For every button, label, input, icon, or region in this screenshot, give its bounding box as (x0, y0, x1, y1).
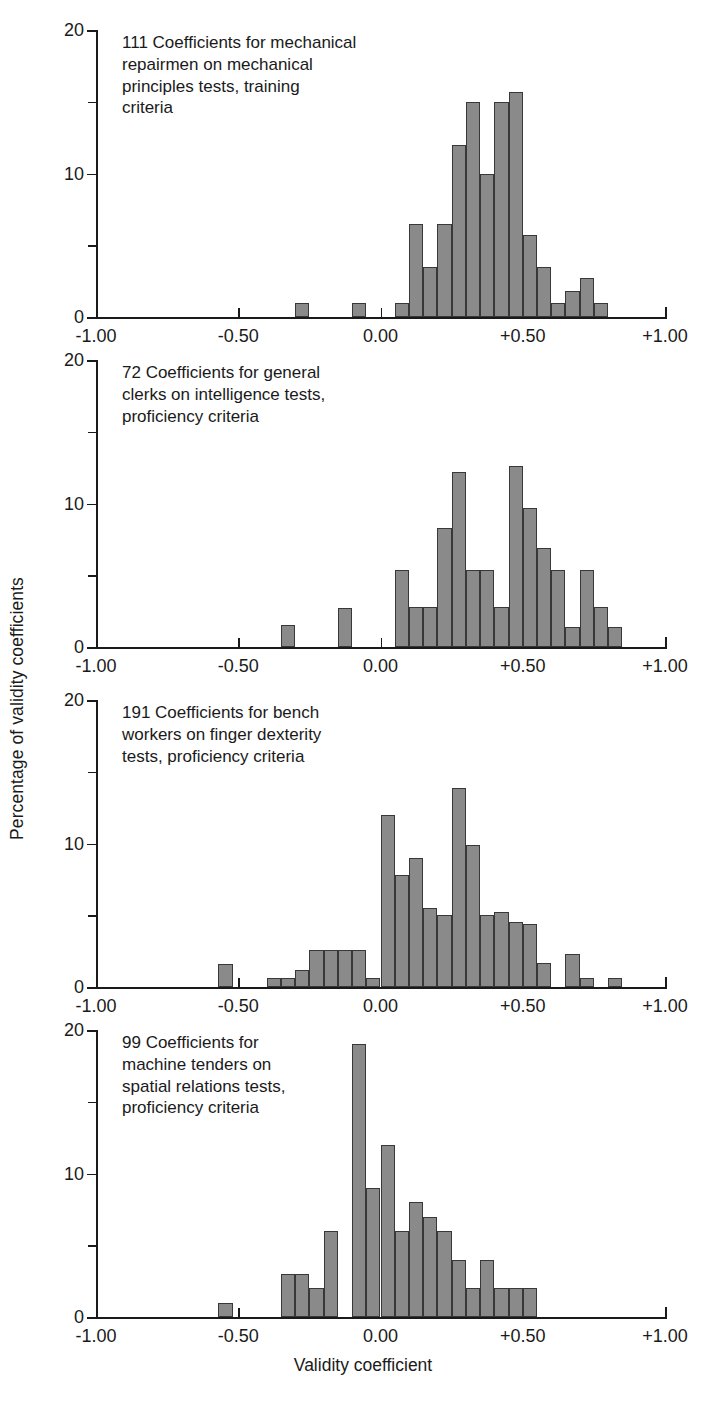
histogram-bar (366, 978, 380, 987)
x-axis-line (96, 987, 667, 989)
x-tick-label: +0.50 (500, 1327, 546, 1345)
y-tick-minor (88, 102, 96, 104)
y-tick-major (87, 700, 96, 702)
histogram-bar (537, 548, 551, 647)
x-tick-label: +1.00 (642, 1327, 688, 1345)
y-axis-line (96, 30, 98, 317)
histogram-bar (580, 570, 594, 647)
histogram-bar (494, 607, 508, 647)
histogram-bar (494, 102, 508, 317)
histogram-bar (565, 627, 579, 647)
panel-caption: 99 Coefficients for machine tenders on s… (122, 1032, 285, 1119)
x-tick (96, 307, 98, 318)
x-axis-title: Validity coefficient (0, 1355, 726, 1376)
y-tick-label: 10 (50, 835, 84, 853)
y-tick-minor (88, 915, 96, 917)
x-tick (238, 978, 240, 987)
x-axis-line (96, 1317, 667, 1319)
y-tick-label: 20 (50, 691, 84, 709)
y-tick-minor (88, 245, 96, 247)
histogram-bar (452, 788, 466, 987)
histogram-panel-3: 01020-1.00-0.500.00+0.50+1.00191 Coeffic… (36, 700, 720, 1047)
x-tick (381, 638, 383, 647)
y-tick-minor (88, 575, 96, 577)
x-tick-label: 0.00 (363, 997, 398, 1015)
histogram-bar (395, 875, 409, 987)
histogram-bar (309, 950, 323, 987)
histogram-bar (466, 102, 480, 317)
histogram-bar (480, 174, 494, 318)
x-tick-label: +1.00 (642, 657, 688, 675)
x-tick (665, 1307, 667, 1318)
histogram-bar (395, 303, 409, 317)
histogram-bar (551, 303, 565, 317)
x-tick-label: -0.50 (218, 327, 259, 345)
y-tick-major (87, 317, 96, 319)
y-tick-minor (88, 432, 96, 434)
panel-caption: 72 Coefficients for general clerks on in… (122, 362, 325, 427)
y-tick-label: 20 (50, 351, 84, 369)
x-tick (96, 637, 98, 648)
histogram-panel-1: 01020-1.00-0.500.00+0.50+1.00111 Coeffic… (36, 30, 720, 377)
histogram-bar (295, 303, 309, 317)
histogram-bar (523, 1288, 537, 1317)
histogram-bar (594, 607, 608, 647)
x-tick (96, 977, 98, 988)
histogram-bar (594, 303, 608, 317)
histogram-bar (466, 1288, 480, 1317)
histogram-bar (523, 508, 537, 647)
histogram-bar (267, 978, 281, 987)
histogram-bar (509, 466, 523, 647)
x-tick-label: +0.50 (500, 327, 546, 345)
histogram-bar (509, 1288, 523, 1317)
histogram-bar (218, 964, 232, 987)
histogram-bar (509, 922, 523, 987)
histogram-bar (218, 1303, 232, 1317)
histogram-bar (395, 1231, 409, 1317)
x-axis-line (96, 647, 667, 649)
x-axis-line (96, 317, 667, 319)
histogram-bar (281, 1274, 295, 1317)
histogram-bar (480, 1260, 494, 1317)
y-tick-minor (88, 1102, 96, 1104)
histogram-bar (423, 1217, 437, 1317)
y-tick-minor (88, 772, 96, 774)
x-tick-label: -0.50 (218, 997, 259, 1015)
plot-area: 01020-1.00-0.500.00+0.50+1.0072 Coeffici… (36, 360, 720, 707)
histogram-bar (437, 224, 451, 317)
histogram-bar (338, 608, 352, 647)
x-tick (665, 637, 667, 648)
histogram-bar (295, 970, 309, 987)
y-tick-major (87, 30, 96, 32)
histogram-bar (281, 978, 295, 987)
histogram-bar (352, 950, 366, 987)
x-tick-label: +1.00 (642, 997, 688, 1015)
histogram-bar (409, 224, 423, 317)
histogram-bar (437, 915, 451, 987)
histogram-bar (366, 1188, 380, 1317)
histogram-bar (437, 528, 451, 647)
y-tick-label: 10 (50, 165, 84, 183)
y-tick-label: 0 (50, 308, 84, 326)
histogram-bar (480, 570, 494, 647)
histogram-bar (423, 607, 437, 647)
histogram-bar (324, 1231, 338, 1317)
histogram-bar (352, 1044, 366, 1317)
histogram-bar (437, 1231, 451, 1317)
y-tick-major (87, 647, 96, 649)
histogram-bar (494, 912, 508, 987)
y-tick-major (87, 1174, 96, 1176)
y-tick-label: 0 (50, 1308, 84, 1326)
histogram-bar (423, 267, 437, 317)
histogram-bar (565, 291, 579, 317)
x-tick (665, 977, 667, 988)
x-tick-label: +0.50 (500, 997, 546, 1015)
histogram-bar (551, 570, 565, 647)
y-axis-line (96, 360, 98, 647)
y-tick-label: 20 (50, 21, 84, 39)
histogram-panel-2: 01020-1.00-0.500.00+0.50+1.0072 Coeffici… (36, 360, 720, 707)
histogram-bar (409, 607, 423, 647)
plot-area: 01020-1.00-0.500.00+0.50+1.00111 Coeffic… (36, 30, 720, 377)
histogram-bar (452, 472, 466, 647)
histogram-bar (309, 1288, 323, 1317)
